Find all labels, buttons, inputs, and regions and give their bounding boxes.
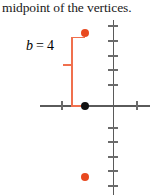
y-axis-tick: [108, 170, 118, 172]
y-axis-tick: [108, 55, 118, 57]
center-point: [81, 102, 89, 110]
y-axis-tick: [108, 156, 118, 158]
x-axis-tick: [136, 101, 138, 110]
coordinate-graph: [0, 18, 154, 195]
x-axis-tick: [61, 101, 63, 110]
x-axis: [40, 105, 150, 107]
brace-stem: [71, 37, 73, 107]
figure-page: midpoint of the vertices. b=4: [0, 0, 154, 195]
y-axis-tick: [108, 141, 118, 143]
y-axis-tick: [108, 185, 118, 187]
brace-label-variable: b: [26, 38, 33, 53]
brace-label: b=4: [26, 38, 54, 54]
y-axis-tick: [108, 84, 118, 86]
y-axis-tick: [108, 40, 118, 42]
upper-vertex-point: [81, 29, 89, 37]
brace-label-equals: =: [36, 38, 44, 53]
y-axis: [113, 20, 115, 195]
caption-text: midpoint of the vertices.: [2, 0, 154, 16]
y-axis-tick: [108, 69, 118, 71]
lower-vertex-point: [81, 173, 89, 181]
y-axis-tick: [108, 25, 118, 27]
brace-label-value: 4: [47, 38, 54, 53]
y-axis-tick: [108, 127, 118, 129]
brace-notch: [63, 64, 72, 66]
